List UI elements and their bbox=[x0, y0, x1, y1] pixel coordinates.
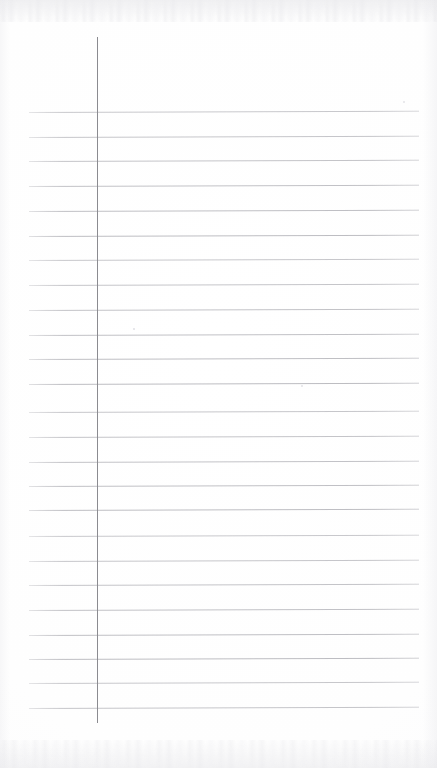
writing-area[interactable] bbox=[0, 0, 437, 768]
notebook-page bbox=[0, 0, 437, 768]
